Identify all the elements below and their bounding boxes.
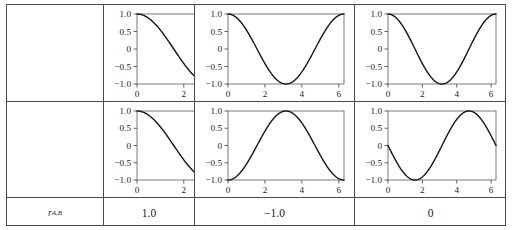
svg-text:1.0: 1.0 <box>211 106 223 116</box>
svg-text:−1.0: −1.0 <box>114 79 131 89</box>
svg-text:0: 0 <box>386 89 391 99</box>
correlation-value-col0: 1.0 <box>104 198 194 228</box>
svg-text:6: 6 <box>489 185 494 195</box>
svg-text:0: 0 <box>377 44 382 54</box>
svg-text:1.0: 1.0 <box>120 106 132 116</box>
svg-text:−0.5: −0.5 <box>365 158 382 168</box>
svg-text:0: 0 <box>226 89 231 99</box>
plot-cell-r1c2: −1.0−0.500.51.00246 <box>355 102 506 197</box>
plot-r0c2: −1.0−0.500.51.00246 <box>355 5 506 101</box>
svg-text:0: 0 <box>217 141 222 151</box>
figure-table: −1.0−0.500.51.00246 −1.0−0.500.51.00246 … <box>6 4 506 226</box>
svg-text:6: 6 <box>336 185 341 195</box>
svg-text:−0.5: −0.5 <box>205 158 222 168</box>
svg-text:−1.0: −1.0 <box>365 79 382 89</box>
svg-text:2: 2 <box>181 185 186 195</box>
svg-text:−1.0: −1.0 <box>365 175 382 185</box>
svg-text:2: 2 <box>181 89 186 99</box>
svg-text:0.5: 0.5 <box>371 123 383 133</box>
correlation-value-col1: −1.0 <box>195 198 354 228</box>
svg-text:0.5: 0.5 <box>211 123 223 133</box>
svg-text:0: 0 <box>135 89 140 99</box>
svg-text:−0.5: −0.5 <box>365 62 382 72</box>
svg-text:0: 0 <box>217 44 222 54</box>
svg-text:1.0: 1.0 <box>120 9 132 19</box>
svg-text:0.5: 0.5 <box>120 123 132 133</box>
correlation-symbol-subscript: A,B <box>52 209 62 217</box>
correlation-value-col2: 0 <box>355 198 506 228</box>
svg-text:−1.0: −1.0 <box>205 175 222 185</box>
svg-text:1.0: 1.0 <box>211 9 223 19</box>
svg-text:−0.5: −0.5 <box>114 62 131 72</box>
svg-text:6: 6 <box>336 89 341 99</box>
svg-text:0.5: 0.5 <box>371 27 383 37</box>
svg-text:−1.0: −1.0 <box>205 79 222 89</box>
svg-text:2: 2 <box>420 185 425 195</box>
svg-text:0: 0 <box>386 185 391 195</box>
plot-cell-r1c0: −1.0−0.500.51.00246 <box>104 102 194 197</box>
svg-text:4: 4 <box>300 89 305 99</box>
correlation-coefficient-figure: −1.0−0.500.51.00246 −1.0−0.500.51.00246 … <box>0 0 514 230</box>
correlation-symbol-label: rA,B <box>7 198 103 228</box>
plot-r1c2: −1.0−0.500.51.00246 <box>355 102 506 197</box>
plot-r1c1: −1.0−0.500.51.00246 <box>195 102 354 197</box>
svg-text:4: 4 <box>454 89 459 99</box>
svg-text:0.5: 0.5 <box>120 27 132 37</box>
svg-text:2: 2 <box>420 89 425 99</box>
svg-text:6: 6 <box>489 89 494 99</box>
svg-text:0: 0 <box>126 141 131 151</box>
svg-text:2: 2 <box>263 185 268 195</box>
svg-text:1.0: 1.0 <box>371 9 383 19</box>
svg-text:1.0: 1.0 <box>371 106 383 116</box>
plot-r0c1: −1.0−0.500.51.00246 <box>195 5 354 101</box>
svg-text:−0.5: −0.5 <box>114 158 131 168</box>
plot-cell-r0c1: −1.0−0.500.51.00246 <box>195 5 354 101</box>
svg-text:0: 0 <box>377 141 382 151</box>
plot-cell-r0c2: −1.0−0.500.51.00246 <box>355 5 506 101</box>
plot-r0c0: −1.0−0.500.51.00246 <box>104 5 194 101</box>
plot-cell-r0c0: −1.0−0.500.51.00246 <box>104 5 194 101</box>
svg-text:0: 0 <box>226 185 231 195</box>
svg-text:−1.0: −1.0 <box>114 175 131 185</box>
svg-text:2: 2 <box>263 89 268 99</box>
svg-text:4: 4 <box>300 185 305 195</box>
svg-text:4: 4 <box>454 185 459 195</box>
svg-text:0: 0 <box>135 185 140 195</box>
plot-cell-r1c1: −1.0−0.500.51.00246 <box>195 102 354 197</box>
plot-r1c0: −1.0−0.500.51.00246 <box>104 102 194 197</box>
svg-text:0: 0 <box>126 44 131 54</box>
svg-text:0.5: 0.5 <box>211 27 223 37</box>
svg-text:−0.5: −0.5 <box>205 62 222 72</box>
